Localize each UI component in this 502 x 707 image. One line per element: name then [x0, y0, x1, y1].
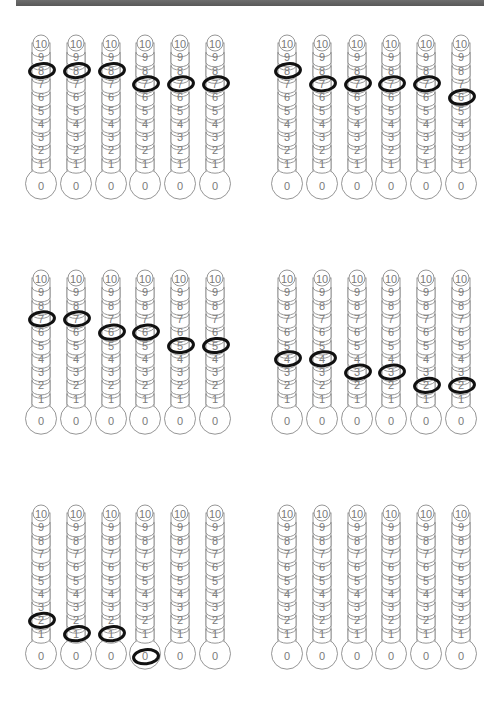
scale-label: 5: [177, 105, 183, 117]
scale-label: 3: [423, 131, 429, 143]
scale-label: 6: [142, 326, 148, 338]
scale-label: 6: [458, 91, 464, 103]
scale-label: 1: [423, 393, 429, 405]
scale-label: 9: [284, 521, 290, 533]
scale-label: 2: [177, 379, 183, 391]
scale-label: 1: [38, 393, 44, 405]
scale-label: 10: [105, 508, 117, 520]
scale-label: 2: [354, 614, 360, 626]
scale-label: 0: [108, 650, 114, 662]
scale-label: 3: [284, 131, 290, 143]
scale-label: 0: [73, 415, 79, 427]
scale-label: 2: [177, 614, 183, 626]
scale-label: 9: [284, 286, 290, 298]
scale-label: 0: [142, 180, 148, 192]
scale-label: 6: [319, 326, 325, 338]
scale-label: 10: [385, 273, 397, 285]
scale-label: 4: [177, 118, 183, 130]
scale-label: 9: [458, 521, 464, 533]
scale-label: 10: [281, 38, 293, 50]
scale-label: 5: [142, 105, 148, 117]
scale-label: 3: [354, 601, 360, 613]
scale-label: 5: [388, 340, 394, 352]
scale-label: 8: [38, 65, 44, 77]
thermometer: 109876543210: [130, 270, 161, 434]
scale-label: 0: [354, 650, 360, 662]
scale-label: 4: [388, 353, 394, 365]
scale-label: 5: [458, 340, 464, 352]
scale-label: 2: [142, 379, 148, 391]
scale-label: 10: [455, 273, 467, 285]
scale-label: 3: [142, 366, 148, 378]
scale-label: 7: [319, 313, 325, 325]
scale-label: 7: [354, 313, 360, 325]
scale-label: 3: [458, 366, 464, 378]
scale-label: 8: [458, 300, 464, 312]
scale-label: 7: [142, 548, 148, 560]
scale-label: 4: [388, 118, 394, 130]
scale-label: 6: [212, 326, 218, 338]
scale-label: 4: [388, 588, 394, 600]
scale-label: 10: [420, 508, 432, 520]
scale-label: 2: [388, 379, 394, 391]
thermometer: 109876543210: [376, 35, 407, 199]
scale-label: 3: [354, 366, 360, 378]
scale-label: 4: [354, 353, 360, 365]
panel-bottom-left: 1098765432101098765432101098765432101098…: [26, 505, 231, 669]
scale-label: 0: [458, 415, 464, 427]
scale-label: 2: [38, 614, 44, 626]
scale-label: 1: [73, 393, 79, 405]
scale-label: 9: [108, 521, 114, 533]
scale-label: 8: [38, 300, 44, 312]
scale-label: 1: [142, 158, 148, 170]
scale-label: 9: [212, 51, 218, 63]
scale-label: 4: [212, 588, 218, 600]
scale-label: 2: [284, 614, 290, 626]
scale-label: 5: [388, 105, 394, 117]
scale-label: 10: [174, 38, 186, 50]
scale-label: 1: [212, 393, 218, 405]
scale-label: 10: [316, 273, 328, 285]
scale-label: 9: [388, 521, 394, 533]
scale-label: 6: [354, 561, 360, 573]
scale-label: 6: [108, 561, 114, 573]
scale-label: 0: [38, 180, 44, 192]
scale-label: 4: [319, 118, 325, 130]
scale-label: 5: [423, 575, 429, 587]
scale-label: 7: [177, 313, 183, 325]
scale-label: 7: [212, 313, 218, 325]
scale-label: 1: [423, 628, 429, 640]
scale-label: 0: [38, 650, 44, 662]
scale-label: 4: [354, 118, 360, 130]
scale-label: 2: [354, 379, 360, 391]
scale-label: 2: [38, 144, 44, 156]
scale-label: 5: [73, 340, 79, 352]
scale-label: 9: [423, 51, 429, 63]
scale-label: 4: [458, 118, 464, 130]
scale-label: 9: [177, 51, 183, 63]
scale-label: 8: [423, 300, 429, 312]
scale-label: 9: [423, 521, 429, 533]
scale-label: 2: [108, 614, 114, 626]
scale-label: 0: [142, 415, 148, 427]
scale-label: 3: [354, 131, 360, 143]
scale-label: 5: [73, 105, 79, 117]
scale-label: 5: [108, 105, 114, 117]
scale-label: 1: [284, 158, 290, 170]
scale-label: 10: [351, 38, 363, 50]
scale-label: 10: [139, 273, 151, 285]
scale-label: 1: [177, 628, 183, 640]
scale-label: 1: [38, 158, 44, 170]
scale-label: 8: [354, 535, 360, 547]
scale-label: 7: [38, 313, 44, 325]
thermometer: 109876543210: [61, 505, 92, 669]
scale-label: 5: [319, 105, 325, 117]
scale-label: 9: [142, 286, 148, 298]
scale-label: 3: [73, 601, 79, 613]
scale-label: 2: [458, 614, 464, 626]
scale-label: 7: [423, 313, 429, 325]
scale-label: 7: [319, 78, 325, 90]
scale-label: 9: [108, 51, 114, 63]
scale-label: 2: [388, 144, 394, 156]
scale-label: 9: [38, 286, 44, 298]
